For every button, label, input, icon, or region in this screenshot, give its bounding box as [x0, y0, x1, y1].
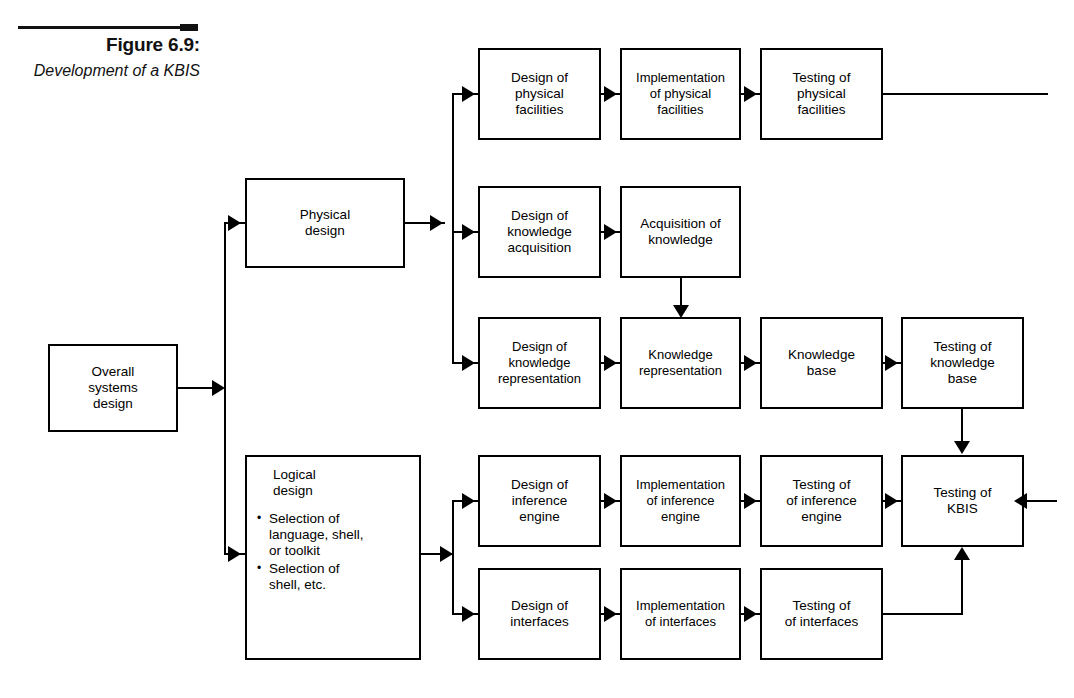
arrowhead-to-design-knowledge-acquisition [462, 224, 475, 240]
arrowhead-implementation-inference [604, 493, 617, 509]
node-label: Physical design [300, 207, 350, 239]
node-design-of-physical-facilities: Design of physical facilities [478, 48, 601, 140]
arrowhead-to-logical-design [228, 546, 241, 562]
arrowhead-knowledge-base [744, 355, 757, 371]
node-label: Knowledge representation [639, 347, 722, 379]
node-label: Testing of KBIS [934, 485, 992, 517]
arrowhead-acquisition-knowledge [604, 224, 617, 240]
logical-design-bullet-list: Selection of language, shell, or toolkit… [257, 511, 411, 593]
node-overall-systems-design: Overall systems design [48, 344, 178, 432]
edge-bus-vertical-left [224, 223, 226, 554]
arrowhead-testing-knowledge-base [885, 355, 898, 371]
logical-design-bullet: Selection of language, shell, or toolkit [257, 511, 411, 559]
edge-acquisition-to-knowledge-representation [680, 278, 682, 308]
node-label: Implementation of interfaces [636, 598, 725, 630]
node-testing-of-knowledge-base: Testing of knowledge base [901, 317, 1024, 409]
node-testing-of-inference-engine: Testing of of inference engine [760, 455, 883, 547]
arrowhead-testing-kbis-left [885, 493, 898, 509]
node-label: Design of knowledge representation [498, 339, 581, 387]
edge-testing-interfaces-right [883, 613, 963, 615]
node-testing-of-kbis: Testing of KBIS [901, 455, 1024, 547]
figure-number: Figure 6.9: [10, 34, 200, 56]
arrowhead-to-design-physical-facilities [462, 86, 475, 102]
node-design-of-inference-engine: Design of inference engine [478, 455, 601, 547]
edge-testing-physical-to-offpage [883, 93, 1048, 95]
arrowhead-knowledge-representation-top [673, 305, 689, 318]
node-knowledge-base: Knowledge base [760, 317, 883, 409]
edge-testing-knowledge-base-to-kbis [961, 409, 963, 443]
node-physical-design: Physical design [245, 178, 405, 268]
node-label: Design of physical facilities [511, 70, 568, 118]
node-label: Implementation of inference engine [636, 477, 725, 525]
arrowhead-testing-kbis-top [954, 441, 970, 454]
node-label: Design of inference engine [511, 477, 568, 525]
caption-rule [18, 26, 198, 29]
arrowhead-testing-physical [744, 86, 757, 102]
node-testing-of-physical-facilities: Testing of physical facilities [760, 48, 883, 140]
arrowhead-to-physical-design [228, 215, 241, 231]
arrowhead-testing-kbis-right [1014, 493, 1027, 509]
node-label: Design of knowledge acquisition [507, 208, 572, 256]
node-acquisition-of-knowledge: Acquisition of knowledge [620, 186, 741, 278]
node-testing-of-interfaces: Testing of of interfaces [760, 568, 883, 660]
figure-caption: Development of a KBIS [10, 60, 200, 82]
node-implementation-of-inference-engine: Implementation of inference engine [620, 455, 741, 547]
node-label: Overall systems design [88, 364, 138, 412]
edge-physical-bus-vertical [452, 93, 454, 364]
node-logical-design: Logical design Selection of language, sh… [245, 455, 421, 660]
arrowhead-knowledge-representation-left [604, 355, 617, 371]
node-implementation-of-physical-facilities: Implementation of physical facilities [620, 48, 741, 140]
arrowhead-physical-design-out [430, 215, 443, 231]
arrowhead-to-design-interfaces [462, 606, 475, 622]
edge-testing-interfaces-up [961, 560, 963, 615]
edge-offpage-to-testing-kbis [1027, 500, 1057, 502]
arrowhead-implementation-physical [604, 86, 617, 102]
node-design-of-knowledge-acquisition: Design of knowledge acquisition [478, 186, 601, 278]
node-implementation-of-interfaces: Implementation of interfaces [620, 568, 741, 660]
node-knowledge-representation: Knowledge representation [620, 317, 741, 409]
node-design-of-interfaces: Design of interfaces [478, 568, 601, 660]
node-label: Design of interfaces [510, 598, 569, 630]
node-label: Logical design [273, 467, 411, 499]
node-design-of-knowledge-representation: Design of knowledge representation [478, 317, 601, 409]
node-label: Knowledge base [788, 347, 855, 379]
arrowhead-testing-kbis-bottom [954, 547, 970, 560]
node-label: Testing of knowledge base [930, 339, 995, 387]
node-label: Testing of physical facilities [793, 70, 851, 118]
node-label: Testing of of interfaces [785, 598, 859, 630]
arrowhead-to-design-knowledge-representation [462, 355, 475, 371]
arrowhead-testing-interfaces [744, 606, 757, 622]
edge-logical-bus-vertical [452, 500, 454, 615]
edge-overall-to-bus [178, 387, 216, 389]
logical-design-bullet: Selection of shell, etc. [257, 561, 411, 593]
node-label: Acquisition of knowledge [640, 216, 720, 248]
figure-page: Figure 6.9: Development of a KBIS Overal… [0, 0, 1074, 698]
arrowhead-implementation-interfaces [604, 606, 617, 622]
arrowhead-to-design-inference-engine [462, 493, 475, 509]
node-label: Testing of of inference engine [786, 477, 857, 525]
node-label: Implementation of physical facilities [636, 70, 725, 118]
arrowhead-testing-inference [744, 493, 757, 509]
